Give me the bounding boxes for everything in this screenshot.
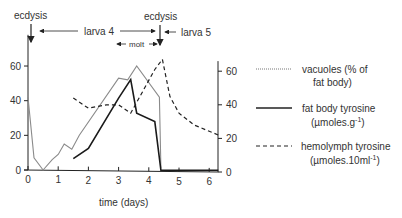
y-tick-right: 0 <box>226 167 232 178</box>
chart: ecdysis ecdysis larva 4 larva 5 molt 020… <box>0 0 402 218</box>
legend-vacuoles-line2: fat body) <box>313 77 352 88</box>
larva4-label: larva 4 <box>84 26 114 37</box>
series-lines <box>28 59 218 170</box>
legend-fatbody-line2: (µmoles.g-1) <box>311 116 365 128</box>
x-tick: 5 <box>176 176 182 187</box>
y-tick-right: 40 <box>226 99 238 110</box>
legend-fatbody-line1: fat body tyrosine <box>302 103 376 114</box>
x-tick: 0 <box>25 174 31 185</box>
axes: 020406002040600123456 <box>10 35 238 187</box>
legend: vacuoles (% of fat body) fat body tyrosi… <box>256 64 391 166</box>
series-line-1 <box>73 80 218 171</box>
x-tick: 4 <box>146 175 152 186</box>
y-tick-left: 60 <box>10 61 22 72</box>
y-tick-left: 40 <box>10 95 22 106</box>
series-line-0 <box>28 66 161 170</box>
ecdysis-label-left: ecdysis <box>14 10 47 21</box>
legend-hemolymph-line1: hemolymph tyrosine <box>301 141 391 152</box>
x-tick: 3 <box>116 175 122 186</box>
ecdysis-label-right: ecdysis <box>144 11 177 22</box>
y-tick-left: 0 <box>15 165 21 176</box>
y-tick-right: 60 <box>226 66 238 77</box>
series-line-2 <box>73 59 218 135</box>
x-tick: 2 <box>86 175 92 186</box>
larva5-label: larva 5 <box>181 27 211 38</box>
x-tick: 1 <box>55 174 61 185</box>
y-tick-left: 20 <box>10 130 22 141</box>
molt-label: molt <box>129 40 145 49</box>
x-tick: 6 <box>206 176 212 187</box>
legend-vacuoles-line1: vacuoles (% of <box>302 64 368 75</box>
legend-hemolymph-line2: (µmoles.10ml-1) <box>310 154 380 166</box>
x-axis-label: time (days) <box>99 197 148 208</box>
y-tick-right: 20 <box>226 133 238 144</box>
